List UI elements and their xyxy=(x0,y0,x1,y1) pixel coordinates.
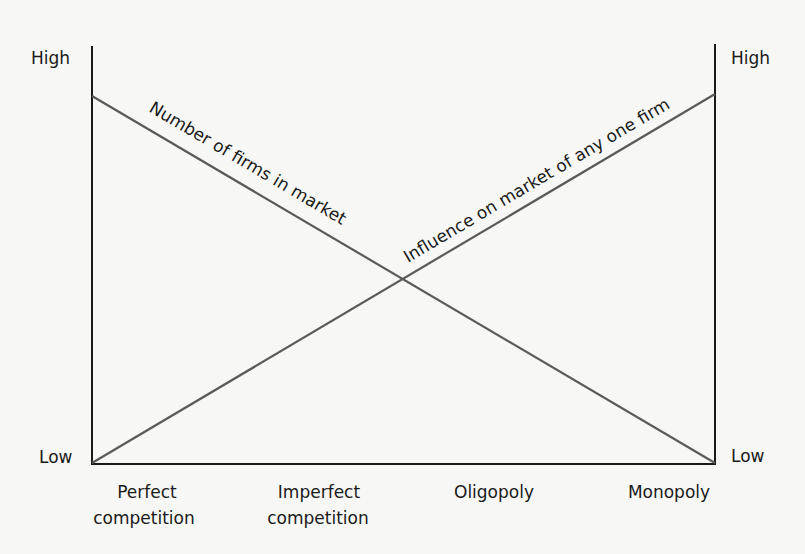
category-monopoly: Monopoly xyxy=(628,482,710,502)
category-perfect-competition-line2: competition xyxy=(93,508,195,528)
category-perfect-competition-line1: Perfect xyxy=(117,482,177,502)
right-high-label: High xyxy=(731,48,770,68)
category-imperfect-competition-line2: competition xyxy=(267,508,369,528)
left-low-label: Low xyxy=(39,447,73,467)
category-oligopoly: Oligopoly xyxy=(454,482,534,502)
number-of-firms-label: Number of firms in market xyxy=(146,97,350,229)
category-imperfect-competition-line1: Imperfect xyxy=(278,482,361,502)
right-low-label: Low xyxy=(731,446,765,466)
market-structure-diagram: Number of firms in market Influence on m… xyxy=(0,0,805,554)
left-high-label: High xyxy=(31,48,70,68)
influence-label: Influence on market of any one firm xyxy=(400,94,673,267)
